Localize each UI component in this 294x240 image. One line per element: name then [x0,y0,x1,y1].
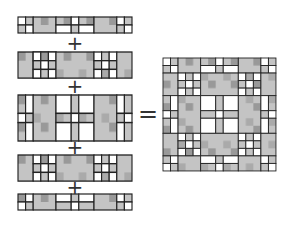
assembled-block [163,58,276,171]
equals-sign: = [138,104,158,124]
plus-sign: + [65,33,85,53]
plus-sign: + [65,137,85,157]
plus-sign: + [65,76,85,96]
plus-sign: + [65,177,85,197]
